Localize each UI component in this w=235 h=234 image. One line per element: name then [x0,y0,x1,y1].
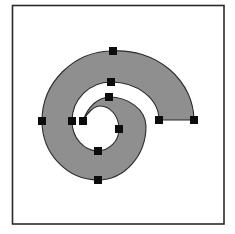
control-point-handle-end-inner[interactable] [155,116,163,124]
control-point-handle-inner-right[interactable] [115,125,123,133]
spiral-diagram [0,0,235,234]
control-point-handle-outer-top[interactable] [109,47,117,55]
control-point-handle-middle-top[interactable] [107,78,115,86]
control-point-handle-middle-left[interactable] [68,117,76,125]
control-point-handle-outer-left[interactable] [38,117,46,125]
control-point-handle-inner-bottom[interactable] [94,147,102,155]
control-point-handle-outer-bottom[interactable] [94,176,102,184]
control-point-handle-inner-top[interactable] [105,93,113,101]
control-point-handle-inner-tip[interactable] [79,117,87,125]
control-point-handle-end-outer[interactable] [190,116,198,124]
